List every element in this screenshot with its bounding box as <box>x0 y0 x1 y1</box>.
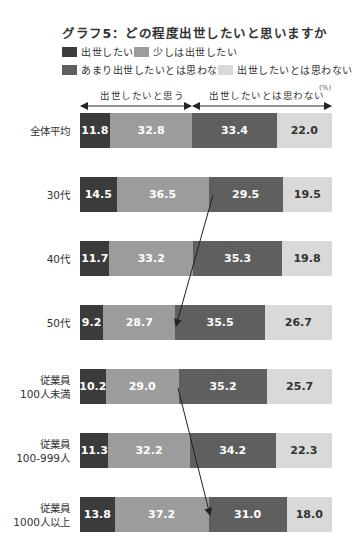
trend-arrow-age <box>176 195 213 326</box>
trend-arrow-company-size <box>178 388 210 515</box>
